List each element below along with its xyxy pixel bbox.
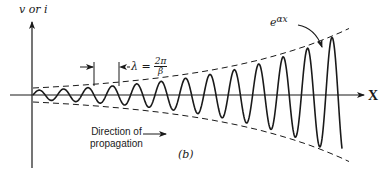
traveling-wave-figure: v or i X eαx λ = 2π β Direction of propa… [0,0,388,176]
envelope-label-base: e [270,16,277,29]
envelope-label: eαx [270,16,288,29]
envelope-pointer-arrow-icon [298,25,322,47]
wavelength-fraction: 2π β [154,57,168,76]
fraction-denominator: β [158,67,163,76]
growing-sinusoid-curve [33,38,342,149]
direction-label-line1: Direction of [90,126,143,138]
upper-envelope-curve [33,29,349,89]
envelope-label-exponent: αx [277,14,288,24]
direction-label-line2: propagation [90,138,143,150]
wave-plot [0,0,388,176]
wavelength-marker [80,62,130,86]
y-axis-label: v or i [19,3,48,16]
wavelength-equation: λ = 2π β [131,57,167,76]
x-axis-label: X [368,88,378,104]
panel-label: (b) [178,148,194,161]
direction-of-propagation-label: Direction of propagation [90,126,143,150]
wavelength-lhs: λ = [131,60,151,73]
